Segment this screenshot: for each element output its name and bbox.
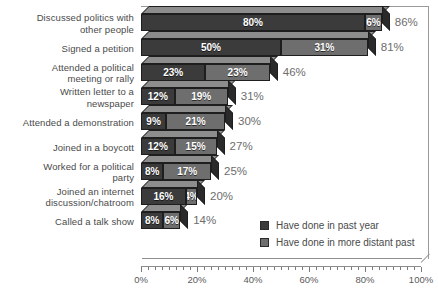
x-axis-minor-tick bbox=[302, 267, 303, 270]
bar-segment-past-year-5[interactable]: 12% bbox=[141, 138, 175, 155]
bar-top-face-1 bbox=[141, 31, 376, 39]
legend-swatch-past-year bbox=[260, 221, 269, 230]
x-axis-major-tick bbox=[421, 267, 422, 272]
bar-segment-label: 23% bbox=[228, 67, 248, 78]
bar-top-face-4 bbox=[141, 105, 233, 113]
bar-segment-past-year-7[interactable]: 16% bbox=[141, 188, 186, 205]
x-axis-minor-tick bbox=[155, 267, 156, 270]
bar-segment-label: 8% bbox=[145, 166, 159, 177]
x-axis-top-edge bbox=[142, 258, 422, 259]
bar-top-face-6 bbox=[141, 155, 219, 163]
bar-total-label-4: 30% bbox=[238, 115, 261, 127]
bar-segment-distant-past-3[interactable]: 19% bbox=[175, 88, 228, 105]
bar-segment-distant-past-0[interactable]: 6% bbox=[365, 14, 382, 31]
category-label-6: Worked for a political party bbox=[2, 161, 134, 184]
x-axis-minor-tick bbox=[323, 267, 324, 270]
stacked-bar-chart: Discussed politics with other peopleSign… bbox=[0, 0, 438, 297]
bar-total-label-5: 27% bbox=[230, 140, 253, 152]
bar-segment-distant-past-6[interactable]: 17% bbox=[163, 163, 211, 180]
bar-row: 12%15% bbox=[141, 138, 217, 155]
legend-swatch-distant-past bbox=[260, 238, 269, 247]
bar-segment-label: 17% bbox=[177, 166, 197, 177]
bar-segment-distant-past-8[interactable]: 6% bbox=[163, 212, 180, 229]
x-axis-tick-label-1: 20% bbox=[187, 274, 206, 285]
x-axis-minor-tick bbox=[267, 267, 268, 270]
category-label-5: Joined in a boycott bbox=[2, 142, 134, 154]
x-axis-minor-tick bbox=[148, 267, 149, 270]
bar-segment-past-year-4[interactable]: 9% bbox=[141, 113, 166, 130]
category-label-2: Attended a political meeting or rally bbox=[2, 62, 134, 85]
legend-item-0[interactable]: Have done in past year bbox=[260, 218, 414, 233]
category-label-0: Discussed politics with other people bbox=[2, 12, 134, 35]
x-axis-minor-tick bbox=[337, 267, 338, 270]
bar-segment-past-year-2[interactable]: 23% bbox=[141, 64, 205, 81]
bar-segment-label: 50% bbox=[201, 42, 221, 53]
x-axis-minor-tick bbox=[386, 267, 387, 270]
x-axis-major-tick bbox=[141, 267, 142, 272]
x-axis-minor-tick bbox=[393, 267, 394, 270]
bar-segment-past-year-8[interactable]: 8% bbox=[141, 212, 163, 229]
bar-segment-label: 21% bbox=[186, 116, 206, 127]
x-axis-minor-tick bbox=[211, 267, 212, 270]
x-axis-minor-tick bbox=[176, 267, 177, 270]
bar-total-label-3: 31% bbox=[241, 90, 264, 102]
x-axis-minor-tick bbox=[295, 267, 296, 270]
x-axis-minor-tick bbox=[218, 267, 219, 270]
bar-top-face-7 bbox=[141, 180, 205, 188]
bar-row: 50%31% bbox=[141, 39, 368, 56]
x-axis-major-tick bbox=[197, 267, 198, 272]
x-axis-minor-tick bbox=[162, 267, 163, 270]
x-axis-minor-tick bbox=[204, 267, 205, 270]
bar-segment-label: 8% bbox=[145, 215, 159, 226]
x-axis-major-tick bbox=[309, 267, 310, 272]
x-axis-minor-tick bbox=[281, 267, 282, 270]
legend-label: Have done in more distant past bbox=[276, 237, 414, 248]
bar-segment-label: 80% bbox=[243, 17, 263, 28]
bar-row: 12%19% bbox=[141, 88, 228, 105]
bar-segment-distant-past-5[interactable]: 15% bbox=[175, 138, 217, 155]
bar-segment-label: 23% bbox=[163, 67, 183, 78]
x-axis-minor-tick bbox=[260, 267, 261, 270]
x-axis-minor-tick bbox=[190, 267, 191, 270]
bar-segment-label: 15% bbox=[186, 141, 206, 152]
bar-segment-distant-past-4[interactable]: 21% bbox=[166, 113, 225, 130]
bar-row: 80%6% bbox=[141, 14, 382, 31]
x-axis-minor-tick bbox=[414, 267, 415, 270]
bar-segment-past-year-6[interactable]: 8% bbox=[141, 163, 163, 180]
bar-segment-label: 9% bbox=[146, 116, 160, 127]
x-axis-minor-tick bbox=[288, 267, 289, 270]
x-axis-minor-tick bbox=[169, 267, 170, 270]
bar-row: 8%6% bbox=[141, 212, 180, 229]
x-axis-minor-tick bbox=[372, 267, 373, 270]
bar-row: 23%23% bbox=[141, 64, 270, 81]
bar-segment-label: 12% bbox=[148, 91, 168, 102]
category-label-7: Joined an internet discussion/chatroom bbox=[2, 186, 134, 209]
bar-segment-past-year-1[interactable]: 50% bbox=[141, 39, 281, 56]
bar-segment-distant-past-7[interactable]: 4% bbox=[186, 188, 197, 205]
x-axis-minor-tick bbox=[225, 267, 226, 270]
bar-segment-past-year-3[interactable]: 12% bbox=[141, 88, 175, 105]
x-axis-minor-tick bbox=[344, 267, 345, 270]
x-axis-minor-tick bbox=[239, 267, 240, 270]
category-label-4: Attended a demonstration bbox=[2, 117, 134, 129]
bar-segment-distant-past-1[interactable]: 31% bbox=[281, 39, 368, 56]
x-axis-minor-tick bbox=[246, 267, 247, 270]
bar-segment-label: 4% bbox=[186, 191, 197, 202]
legend-item-1[interactable]: Have done in more distant past bbox=[260, 235, 414, 250]
x-axis-minor-tick bbox=[274, 267, 275, 270]
bar-row: 8%17% bbox=[141, 163, 211, 180]
bar-segment-distant-past-2[interactable]: 23% bbox=[205, 64, 269, 81]
chart-legend: Have done in past yearHave done in more … bbox=[260, 218, 414, 252]
bar-total-label-8: 14% bbox=[193, 214, 216, 226]
x-axis-tick-label-0: 0% bbox=[134, 274, 148, 285]
bar-segment-label: 12% bbox=[148, 141, 168, 152]
legend-label: Have done in past year bbox=[276, 220, 379, 231]
bar-row: 9%21% bbox=[141, 113, 225, 130]
x-axis-major-tick bbox=[253, 267, 254, 272]
bar-segment-label: 6% bbox=[165, 215, 179, 226]
bar-segment-label: 16% bbox=[153, 191, 173, 202]
bar-total-label-2: 46% bbox=[283, 66, 306, 78]
bar-top-face-2 bbox=[141, 56, 278, 64]
bar-segment-past-year-0[interactable]: 80% bbox=[141, 14, 365, 31]
x-axis-minor-tick bbox=[400, 267, 401, 270]
